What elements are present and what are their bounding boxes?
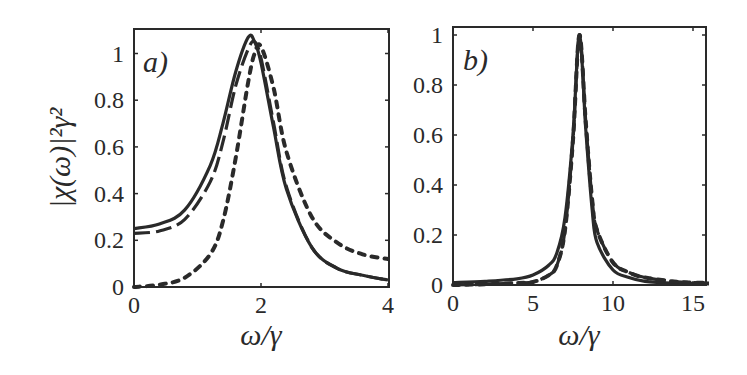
y-tick-label: 0 <box>112 274 124 300</box>
y-tick-label: 0.2 <box>94 227 124 253</box>
y-tick-label: 0.4 <box>413 172 443 198</box>
x-tick-label: 10 <box>601 290 625 316</box>
curve-dotted <box>134 44 388 287</box>
x-tick-label: 2 <box>255 292 267 318</box>
panel-b-ticks: 05101500.20.40.60.81 <box>413 22 706 316</box>
y-tick-label: 0 <box>431 272 443 298</box>
y-tick-label: 1 <box>112 41 124 67</box>
curve-solid <box>134 35 388 280</box>
panel-a-ticks: 02400.20.40.60.81 <box>94 29 394 318</box>
figure: 02400.20.40.60.81 a) ω/γ |χ(ω)|²γ² 05101… <box>0 0 747 375</box>
panel-a-curves <box>134 35 388 287</box>
panel-a-y-axis-label: |χ(ω)|²γ² <box>43 107 77 209</box>
panel-b: 05101500.20.40.60.81 b) ω/γ <box>413 22 709 351</box>
x-tick-label: 4 <box>382 292 394 318</box>
y-tick-label: 0.2 <box>413 222 443 248</box>
panel-a-label: a) <box>143 45 168 79</box>
panel-a: 02400.20.40.60.81 a) ω/γ |χ(ω)|²γ² <box>43 29 394 351</box>
y-tick-label: 0.8 <box>413 72 443 98</box>
panel-a-x-axis-label: ω/γ <box>240 318 283 351</box>
panel-b-label: b) <box>463 43 488 77</box>
panel-b-curves <box>453 35 709 285</box>
x-tick-label: 15 <box>681 290 705 316</box>
x-tick-label: 0 <box>128 292 140 318</box>
panel-b-axes-box <box>453 27 706 285</box>
panel-b-x-axis-label: ω/γ <box>558 318 601 351</box>
y-tick-label: 0.6 <box>94 134 124 160</box>
y-tick-label: 0.6 <box>413 122 443 148</box>
y-tick-label: 0.8 <box>94 87 124 113</box>
y-tick-label: 1 <box>431 22 443 48</box>
curve-dotted <box>453 35 709 285</box>
x-tick-label: 0 <box>447 290 459 316</box>
curve-dashed <box>134 41 388 280</box>
x-tick-label: 5 <box>527 290 539 316</box>
y-tick-label: 0.4 <box>94 181 124 207</box>
